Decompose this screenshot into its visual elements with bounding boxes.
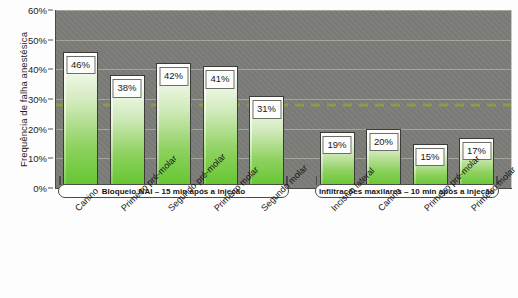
bar-chart: Frequência de falha anestésica 0%10%20%3… [0,0,518,298]
bar-value-label: 31% [252,100,281,119]
y-axis-tick-mark [48,128,53,129]
y-axis-tick-label: 40% [1,64,47,75]
gridline [55,69,511,70]
y-axis-tick-label: 20% [1,123,47,134]
group-bracket-tick [316,176,317,185]
y-axis-tick-label: 0% [1,183,47,194]
gridline [55,10,511,11]
y-axis-tick-label: 50% [1,34,47,45]
y-axis-tick-label: 60% [1,5,47,16]
bar-value-label: 42% [159,67,188,86]
gridline [55,40,511,41]
y-axis-tick-mark [48,39,53,40]
y-axis: 0%10%20%30%40%50%60% [0,10,55,188]
bar-value-label: 41% [205,70,234,89]
bar-value-label: 46% [66,56,95,75]
bar-value-label: 19% [322,136,351,155]
bar-value-label: 38% [112,79,141,98]
group-bracket-tick [59,176,60,185]
y-axis-tick-mark [48,10,53,11]
y-axis-tick-mark [48,69,53,70]
bar-value-label: 20% [369,133,398,152]
y-axis-tick-label: 10% [1,153,47,164]
y-axis-tick-label: 30% [1,94,47,105]
y-axis-tick-mark [48,158,53,159]
y-axis-line [55,10,56,188]
bar-value-label: 15% [415,148,444,167]
y-axis-tick-mark [48,188,53,189]
y-axis-tick-mark [48,99,53,100]
